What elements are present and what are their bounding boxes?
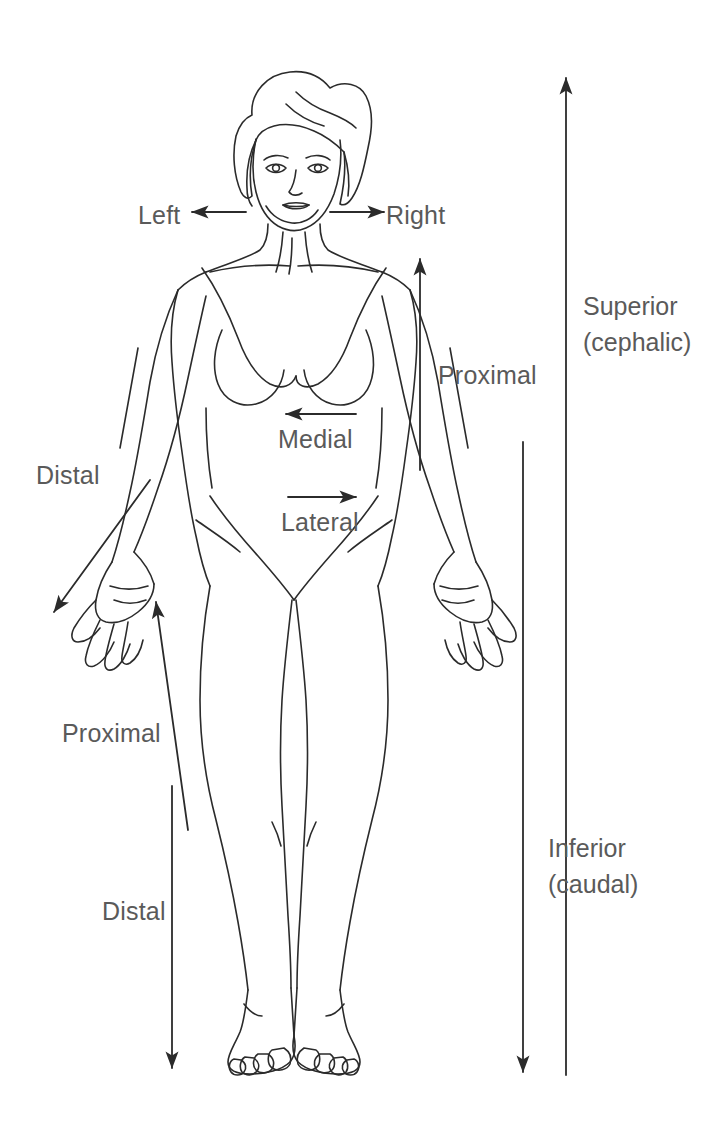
face [253,139,341,230]
label-inferior: Inferior (caudal) [548,830,638,902]
label-superior-line2: (cephalic) [583,324,691,360]
label-proximal-arm: Proximal [438,358,537,392]
label-left: Left [138,198,181,232]
distal-arm-arrow [54,480,150,612]
label-distal-leg: Distal [102,894,166,928]
label-right: Right [386,198,445,232]
label-inferior-line1: Inferior [548,830,638,866]
body-diagram-svg [0,0,708,1148]
neck-and-shoulders [178,224,410,290]
feet [228,988,360,1075]
label-superior-line1: Superior [583,288,691,324]
anatomical-directional-terms-figure: Left Right Medial Lateral Distal Proxima… [0,0,708,1148]
label-lateral: Lateral [281,505,359,539]
label-proximal-leg: Proximal [62,716,161,750]
label-superior: Superior (cephalic) [583,288,691,360]
label-inferior-line2: (caudal) [548,866,638,902]
legs [200,586,388,990]
label-distal-arm: Distal [36,458,100,492]
label-medial: Medial [278,422,353,456]
